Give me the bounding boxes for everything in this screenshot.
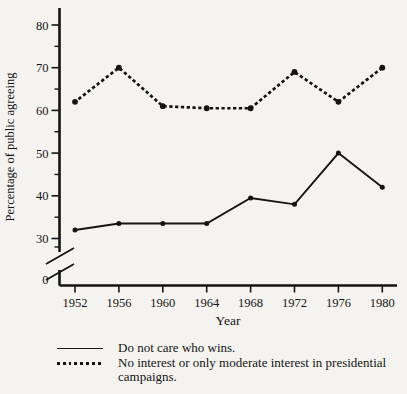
x-tick-label: 1960	[150, 296, 175, 310]
data-point-dotted	[379, 65, 385, 71]
series-line-solid	[75, 153, 382, 230]
x-tick-label: 1980	[370, 296, 395, 310]
data-point-dotted	[336, 99, 342, 105]
legend-row-solid: Do not care who wins.	[57, 341, 407, 356]
data-point-solid	[292, 202, 297, 207]
x-axis-title: Year	[216, 313, 241, 328]
data-point-solid	[248, 195, 253, 200]
y-tick-label: 40	[36, 189, 49, 203]
y-tick-label: 60	[36, 104, 49, 118]
x-tick-label: 1956	[106, 296, 131, 310]
x-tick-label: 1972	[282, 296, 307, 310]
x-tick-label: 1952	[63, 296, 88, 310]
data-point-solid	[73, 227, 78, 232]
data-point-solid	[204, 221, 209, 226]
data-point-solid	[380, 185, 385, 190]
y-axis-title: Percentage of public agreeing	[3, 72, 17, 222]
data-point-dotted	[116, 65, 122, 71]
legend-swatch-dotted-line	[57, 362, 103, 365]
figure: 8070605040300195219561960196419681972197…	[0, 0, 407, 394]
legend-label-solid: Do not care who wins.	[118, 341, 235, 356]
x-tick-label: 1976	[326, 296, 351, 310]
data-point-solid	[160, 221, 165, 226]
y-tick-label: 70	[36, 61, 49, 75]
x-tick-label: 1968	[238, 296, 263, 310]
y-tick-label: 80	[36, 19, 49, 33]
data-point-dotted	[204, 105, 210, 111]
legend: Do not care who wins. No interest or onl…	[57, 341, 407, 385]
data-point-solid	[336, 151, 341, 156]
data-point-dotted	[72, 99, 78, 105]
axis-lines	[60, 8, 398, 286]
legend-label-dotted: No interest or only moderate interest in…	[118, 356, 407, 385]
data-point-solid	[116, 221, 121, 226]
data-point-dotted	[248, 105, 254, 111]
legend-row-dotted: No interest or only moderate interest in…	[57, 356, 407, 385]
chart-canvas: 8070605040300195219561960196419681972197…	[0, 0, 407, 338]
data-point-dotted	[160, 103, 166, 109]
y-tick-label: 30	[36, 232, 49, 246]
data-point-dotted	[292, 69, 298, 75]
y-tick-label: 50	[36, 147, 49, 161]
legend-swatch-solid-line	[57, 348, 103, 349]
x-tick-label: 1964	[194, 296, 220, 310]
y-tick-label-zero: 0	[42, 273, 48, 287]
